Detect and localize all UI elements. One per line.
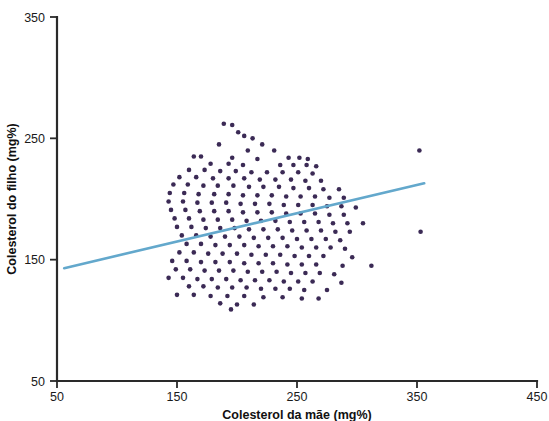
data-point (201, 217, 206, 222)
data-point (256, 244, 261, 249)
data-point (288, 286, 293, 291)
data-point (192, 250, 197, 255)
data-point (171, 182, 176, 187)
data-point (267, 202, 272, 207)
data-point (228, 243, 233, 248)
data-point (261, 295, 266, 300)
data-point (285, 244, 290, 249)
data-point (198, 209, 203, 214)
data-point (211, 176, 216, 181)
data-point (189, 225, 194, 230)
data-point (339, 280, 344, 285)
x-tick-label: 450 (527, 390, 548, 404)
data-point (314, 164, 319, 169)
data-point (212, 192, 217, 197)
data-point (284, 194, 289, 199)
data-point (202, 268, 207, 273)
data-point (339, 204, 344, 209)
data-point (213, 243, 218, 248)
data-point (225, 294, 230, 299)
y-tick-label: 50 (31, 375, 45, 389)
data-point (304, 163, 309, 168)
data-point (271, 244, 276, 249)
data-point (208, 162, 213, 167)
data-point (354, 205, 359, 210)
data-point (212, 209, 217, 214)
data-point (216, 285, 221, 290)
data-point (180, 233, 185, 238)
data-point (196, 192, 201, 197)
data-point (304, 228, 309, 233)
data-point (290, 228, 295, 233)
data-point (210, 200, 215, 205)
y-tick-label: 150 (24, 253, 45, 267)
data-point (303, 179, 308, 184)
data-point (184, 242, 189, 247)
data-point (256, 261, 261, 266)
data-point (236, 130, 241, 135)
data-point (319, 179, 324, 184)
data-point (298, 194, 303, 199)
data-point (302, 288, 307, 293)
data-point (255, 193, 260, 198)
data-point (313, 194, 318, 199)
data-point (192, 154, 197, 159)
data-point (321, 187, 326, 192)
data-point (231, 183, 236, 188)
data-point (234, 169, 239, 174)
data-point (169, 208, 174, 213)
data-point (252, 302, 257, 307)
data-point (175, 293, 180, 298)
data-point (310, 279, 315, 284)
data-point (300, 245, 305, 250)
y-axis-title: Colesterol do filho (mg%) (5, 123, 19, 274)
data-point (321, 254, 326, 259)
data-point (218, 169, 223, 174)
data-point (327, 195, 332, 200)
data-point (271, 261, 276, 266)
data-point (249, 170, 254, 175)
x-tick-label: 150 (167, 390, 188, 404)
scatter-plot-figure: 50150250350 50150250350450 Colesterol da… (0, 0, 549, 421)
data-point (280, 170, 285, 175)
data-point (183, 208, 188, 213)
data-point (192, 293, 197, 298)
data-point (343, 246, 348, 251)
data-point (238, 278, 243, 283)
data-point (172, 216, 177, 221)
data-point (253, 202, 258, 207)
data-point (235, 251, 240, 256)
data-point (318, 271, 323, 276)
data-point (226, 192, 231, 197)
data-point (297, 155, 302, 160)
data-point (201, 183, 206, 188)
data-point (230, 123, 235, 128)
data-point (307, 254, 312, 259)
data-point (241, 210, 246, 215)
data-point (282, 279, 287, 284)
data-point (261, 227, 266, 232)
data-point (224, 277, 229, 282)
data-point (241, 193, 246, 198)
data-point (348, 229, 353, 234)
x-axis-ticks: 50150250350450 (50, 381, 547, 404)
plot-canvas: 50150250350 50150250350450 Colesterol da… (0, 0, 549, 421)
data-point (314, 245, 319, 250)
data-point (226, 162, 231, 167)
data-point (175, 225, 180, 230)
data-point (300, 296, 305, 301)
data-point (216, 183, 221, 188)
data-point (306, 157, 311, 162)
data-point (199, 260, 204, 265)
data-point (217, 268, 222, 273)
data-point (181, 199, 186, 204)
data-point (242, 261, 247, 266)
data-point (258, 177, 263, 182)
data-point (244, 285, 249, 290)
data-point (201, 284, 206, 289)
data-point (168, 191, 173, 196)
data-point (188, 267, 193, 272)
data-point (220, 251, 225, 256)
axes-group (57, 17, 537, 381)
data-point (280, 295, 285, 300)
